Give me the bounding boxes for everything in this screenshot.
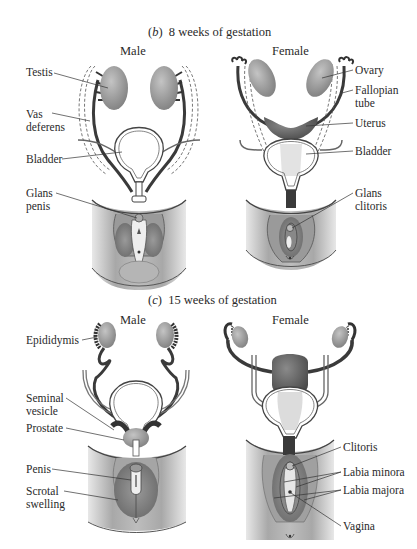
ovary-right-icon: [301, 55, 340, 101]
uterus-icon: [264, 117, 318, 140]
anatomy-diagram: [0, 0, 417, 549]
b-female-internal: [232, 55, 353, 190]
c-female-internal: [225, 324, 355, 438]
b-male-internal: [78, 66, 200, 202]
c-male-external: [88, 446, 186, 533]
testis-left-icon: [100, 66, 128, 110]
bladder-male-icon: [115, 128, 163, 183]
testis-right-icon: [150, 66, 178, 110]
ovary-left-icon: [243, 55, 282, 101]
b-female-external: [246, 190, 336, 270]
c-female-external: [246, 436, 334, 540]
c-male-internal: [83, 322, 189, 456]
b-male-external: [92, 200, 186, 290]
seminal-vesicle-left-icon: [112, 423, 128, 432]
